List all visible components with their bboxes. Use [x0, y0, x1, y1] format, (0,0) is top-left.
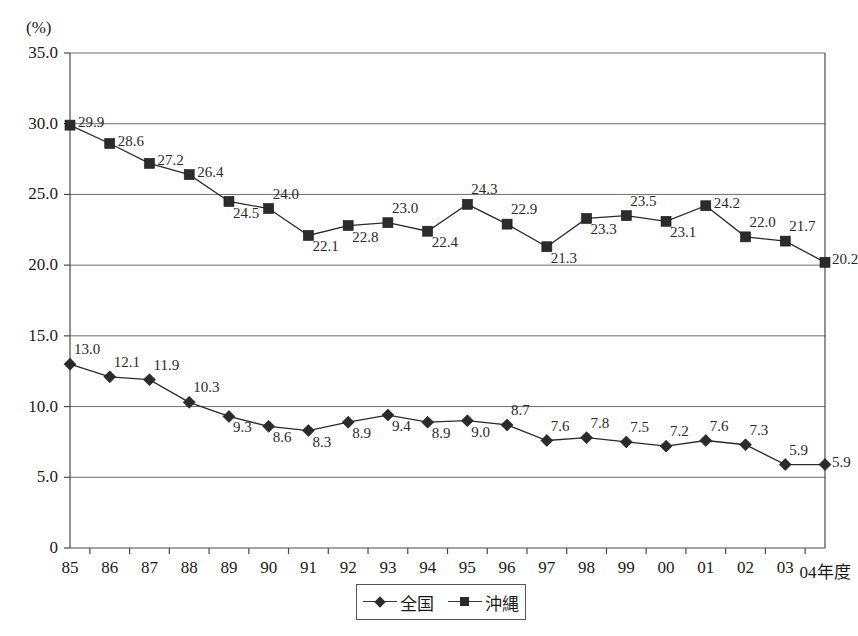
data-point-label: 23.0: [392, 200, 418, 217]
x-axis-tick-label: 91: [300, 558, 317, 578]
y-axis-tick-label: 10.0: [0, 397, 58, 417]
data-point-marker-square: [105, 139, 115, 149]
x-axis-tick-label: 93: [379, 558, 396, 578]
data-point-label: 7.2: [670, 423, 689, 440]
data-point-label: 24.3: [471, 181, 497, 198]
data-point-label: 5.9: [789, 442, 808, 459]
series-line-1: [70, 364, 825, 464]
data-point-marker-diamond: [740, 439, 752, 451]
legend-marker: [374, 596, 385, 607]
y-axis-tick-label: 30.0: [0, 114, 58, 134]
data-point-label: 22.8: [352, 229, 378, 246]
data-point-label: 22.9: [511, 201, 537, 218]
data-point-marker-square: [621, 211, 631, 221]
data-point-label: 29.9: [78, 114, 104, 131]
x-axis-tick-label: 00: [658, 558, 675, 578]
data-point-label: 22.1: [312, 238, 338, 255]
x-axis-tick-label: 94: [419, 558, 436, 578]
data-point-label: 12.1: [114, 354, 140, 371]
data-point-label: 8.3: [312, 434, 331, 451]
x-axis-tick-label: 87: [141, 558, 158, 578]
data-point-label: 13.0: [74, 341, 100, 358]
x-axis-tick-label: 92: [340, 558, 357, 578]
x-axis-tick-label: 85: [62, 558, 79, 578]
y-axis-tick-label: 15.0: [0, 326, 58, 346]
x-axis-tick-label: 96: [499, 558, 516, 578]
data-point-marker-diamond: [64, 358, 76, 370]
x-axis-tick-label: 95: [459, 558, 476, 578]
data-point-label: 20.2: [832, 251, 858, 268]
x-axis-tick-label: 90: [260, 558, 277, 578]
data-point-marker-square: [65, 120, 75, 130]
data-point-label: 22.4: [432, 234, 458, 251]
data-point-label: 5.9: [832, 454, 851, 471]
x-axis-tick-label: 88: [181, 558, 198, 578]
data-point-label: 26.4: [197, 164, 223, 181]
data-point-label: 27.2: [157, 152, 183, 169]
data-point-marker-diamond: [700, 435, 712, 447]
legend-square-icon: [448, 595, 482, 609]
data-point-marker-square: [502, 219, 512, 229]
data-point-label: 8.9: [352, 425, 371, 442]
data-point-marker-square: [184, 170, 194, 180]
y-axis-unit-label: (%): [26, 18, 51, 38]
data-point-label: 28.6: [118, 133, 144, 150]
data-point-marker-diamond: [143, 374, 155, 386]
data-point-marker-diamond: [620, 436, 632, 448]
data-point-label: 10.3: [193, 379, 219, 396]
line-chart: (%) 05.010.015.020.025.030.035.0 8586878…: [0, 0, 858, 636]
data-point-marker-diamond: [541, 435, 553, 447]
data-point-marker-square: [383, 218, 393, 228]
data-point-marker-square: [462, 199, 472, 209]
data-point-marker-square: [820, 257, 830, 267]
data-point-marker-square: [144, 158, 154, 168]
x-axis-tick-label: 02: [737, 558, 754, 578]
data-point-label: 21.3: [551, 250, 577, 267]
chart-legend: 全国沖縄: [356, 584, 526, 620]
x-axis-tick-label: 89: [220, 558, 237, 578]
data-point-marker-diamond: [501, 419, 513, 431]
data-point-label: 9.3: [233, 419, 252, 436]
data-point-label: 23.1: [670, 224, 696, 241]
data-point-label: 7.8: [591, 415, 610, 432]
x-axis-tick-label: 01: [697, 558, 714, 578]
legend-marker: [460, 597, 469, 606]
x-axis-tick-label: 04年度: [800, 558, 851, 583]
data-point-marker-square: [264, 204, 274, 214]
legend-label: 沖縄: [485, 590, 519, 615]
data-point-marker-square: [701, 201, 711, 211]
data-point-label: 7.5: [630, 419, 649, 436]
data-point-label: 23.3: [591, 221, 617, 238]
y-axis-tick-label: 5.0: [0, 467, 58, 487]
data-point-label: 11.9: [153, 357, 179, 374]
legend-entry-2: 沖縄: [448, 590, 519, 615]
x-axis-tick-label: 99: [618, 558, 635, 578]
x-axis-tick-label: 86: [101, 558, 118, 578]
data-point-label: 8.9: [432, 425, 451, 442]
chart-canvas: [0, 0, 858, 636]
y-axis-tick-label: 0: [0, 538, 58, 558]
data-point-label: 7.6: [551, 418, 570, 435]
data-point-label: 21.7: [789, 218, 815, 235]
legend-label: 全国: [400, 590, 434, 615]
data-point-label: 24.2: [714, 195, 740, 212]
data-point-label: 9.4: [392, 418, 411, 435]
y-axis-tick-label: 25.0: [0, 184, 58, 204]
x-axis-tick-label: 98: [578, 558, 595, 578]
data-point-label: 9.0: [471, 424, 490, 441]
data-point-marker-diamond: [660, 440, 672, 452]
data-point-marker-diamond: [581, 432, 593, 444]
x-axis-tick-label: 97: [538, 558, 555, 578]
data-point-label: 22.0: [750, 214, 776, 231]
data-point-label: 7.3: [750, 422, 769, 439]
data-point-marker-square: [780, 236, 790, 246]
data-point-label: 8.6: [273, 429, 292, 446]
data-point-label: 8.7: [511, 402, 530, 419]
data-point-marker-diamond: [104, 371, 116, 383]
data-point-marker-diamond: [779, 459, 791, 471]
data-point-label: 7.6: [710, 418, 729, 435]
legend-diamond-icon: [363, 595, 397, 609]
y-axis-tick-label: 20.0: [0, 255, 58, 275]
data-point-marker-diamond: [819, 459, 831, 471]
data-point-label: 24.5: [233, 205, 259, 222]
